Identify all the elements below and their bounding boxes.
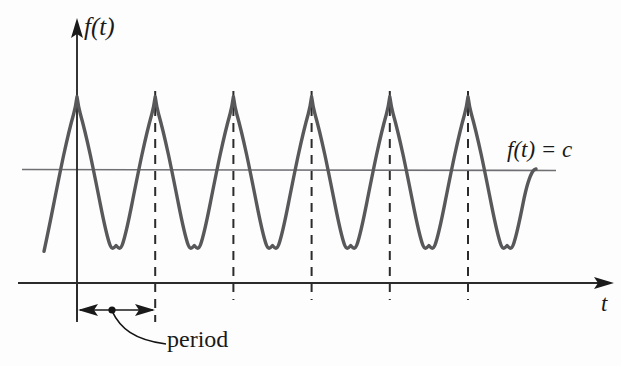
period-annotation <box>77 283 166 344</box>
x-axis-label: t <box>601 292 607 315</box>
period-label: period <box>167 327 228 351</box>
level-line-label: f(t) = c <box>507 138 572 161</box>
level-line-f-equals-c <box>22 170 556 171</box>
y-axis-label: f(t) <box>84 14 115 39</box>
period-leader-line <box>112 311 166 344</box>
figure-canvas <box>0 0 621 366</box>
periodic-function-figure: f(t) t f(t) = c period <box>0 0 621 366</box>
periodic-wave-curve <box>44 97 536 252</box>
peak-dashed-lines <box>155 91 468 322</box>
